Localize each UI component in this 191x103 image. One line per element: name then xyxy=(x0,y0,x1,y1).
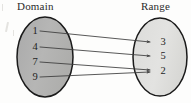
domain-element-4: 4 xyxy=(29,42,41,53)
domain-set-oval xyxy=(17,17,73,97)
range-element-3: 3 xyxy=(157,37,169,48)
domain-element-1: 1 xyxy=(29,26,41,37)
domain-element-9: 9 xyxy=(29,72,41,83)
mapping-diagram-figure: Domain Range 1 4 xyxy=(0,0,191,103)
range-element-2: 2 xyxy=(157,66,169,77)
scan-artifact-fleck xyxy=(13,30,14,36)
scan-artifact-fleck xyxy=(2,4,3,11)
range-element-5: 5 xyxy=(157,51,169,62)
domain-element-7: 7 xyxy=(29,57,41,68)
